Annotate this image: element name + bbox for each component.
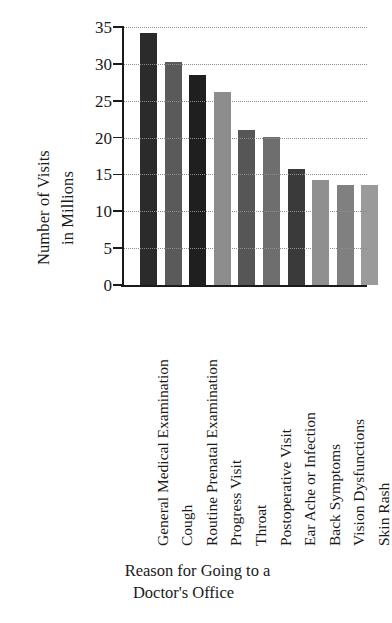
- y-tick-label-25: 25: [70, 93, 112, 110]
- x-tick-label: Skin Rash: [376, 483, 392, 546]
- x-axis-title-line-1: Reason for Going to a: [0, 560, 389, 582]
- y-axis-title: Number of Visits in Millions: [12, 20, 72, 290]
- x-axis-title: Reason for Going to a Doctor's Office: [0, 560, 389, 604]
- gridline-5: [122, 248, 367, 249]
- y-tick-5: [113, 247, 123, 249]
- x-axis-line: [121, 285, 367, 287]
- bar: [361, 185, 378, 285]
- x-tick-label: Cough: [179, 505, 195, 546]
- bar: [214, 92, 231, 285]
- x-tick-label: Back Symptoms: [327, 444, 343, 546]
- y-tick-label-15: 15: [70, 166, 112, 183]
- x-axis-tick-labels: General Medical ExaminationCoughRoutine …: [122, 288, 372, 550]
- x-tick-label: Ear Ache or Infection: [302, 412, 318, 546]
- y-axis-tick-labels: 05101520253035: [66, 27, 112, 285]
- bar: [337, 185, 354, 285]
- gridline-20: [122, 138, 367, 139]
- y-tick-10: [113, 210, 123, 212]
- y-tick-label-10: 10: [70, 203, 112, 220]
- y-tick-15: [113, 174, 123, 176]
- y-tick-label-30: 30: [70, 56, 112, 73]
- y-tick-25: [113, 100, 123, 102]
- bar: [312, 180, 329, 285]
- plot-area: [122, 27, 367, 285]
- bars-group: [122, 27, 367, 285]
- y-tick-0: [113, 284, 123, 286]
- y-axis-title-line-1: Number of Visits: [34, 150, 54, 265]
- x-tick-label: General Medical Examination: [155, 359, 171, 546]
- y-tick-35: [113, 26, 123, 28]
- gridline-30: [122, 64, 367, 65]
- gridline-25: [122, 101, 367, 102]
- y-tick-20: [113, 137, 123, 139]
- gridline-35: [122, 27, 367, 28]
- bar: [288, 169, 305, 285]
- gridline-10: [122, 211, 367, 212]
- x-tick-label: Progress Visit: [228, 460, 244, 546]
- y-tick-label-35: 35: [70, 19, 112, 36]
- x-tick-label: Throat: [253, 505, 269, 546]
- x-tick-label: Vision Dysfunctions: [351, 419, 367, 546]
- x-axis-title-line-2: Doctor's Office: [0, 582, 389, 604]
- bar: [189, 75, 206, 285]
- y-tick-label-0: 0: [70, 277, 112, 294]
- gridline-15: [122, 174, 367, 175]
- y-tick-label-5: 5: [70, 240, 112, 257]
- x-tick-label: Routine Prenatal Examination: [204, 359, 220, 546]
- bar: [238, 130, 255, 285]
- y-tick-30: [113, 63, 123, 65]
- x-tick-label: Postoperative Visit: [278, 429, 294, 546]
- y-tick-label-20: 20: [70, 130, 112, 147]
